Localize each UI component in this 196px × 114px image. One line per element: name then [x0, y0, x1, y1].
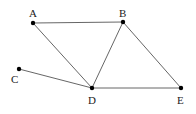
edge-a-d [33, 23, 92, 88]
graph-diagram: ABCDE [0, 0, 196, 114]
edges-group [19, 22, 181, 88]
node-label-c: C [11, 73, 18, 85]
node-label-d: D [88, 94, 96, 106]
node-a [31, 21, 35, 25]
node-d [90, 86, 94, 90]
edge-b-e [123, 22, 181, 88]
node-label-e: E [177, 94, 184, 106]
node-label-a: A [29, 7, 37, 19]
node-e [179, 86, 183, 90]
edge-c-d [19, 69, 92, 88]
edge-b-d [92, 22, 123, 88]
node-b [121, 20, 125, 24]
node-label-b: B [119, 7, 126, 19]
edge-a-b [33, 22, 123, 23]
nodes-group [17, 20, 183, 90]
node-c [17, 67, 21, 71]
